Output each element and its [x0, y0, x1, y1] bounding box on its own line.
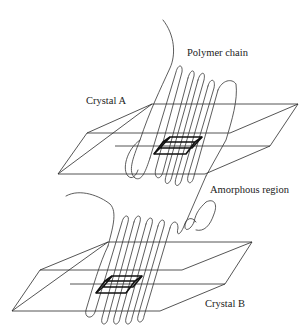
amorphous-region-label: Amorphous region [210, 184, 289, 195]
diagram-drawing [0, 0, 308, 330]
crystal-a-unit-cell [154, 137, 202, 154]
polymer-crystal-diagram: Polymer chain Crystal A Amorphous region… [0, 0, 308, 330]
crystal-a-label: Crystal A [86, 95, 126, 106]
crystal-b-label: Crystal B [205, 298, 245, 309]
polymer-chain-label: Polymer chain [187, 47, 248, 58]
